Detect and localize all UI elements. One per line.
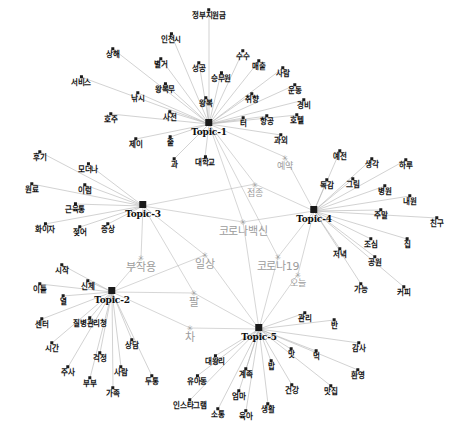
keyword-node[interactable]: 친구 xyxy=(430,216,443,228)
keyword-node[interactable]: 과외 xyxy=(274,133,287,145)
keyword-node[interactable]: 센터 xyxy=(35,317,48,329)
shared-node[interactable]: ✳오늘 xyxy=(290,273,305,288)
keyword-node[interactable]: 주말 xyxy=(374,208,387,220)
keyword-node[interactable]: 병원 xyxy=(378,184,391,196)
keyword-node[interactable]: 계족 xyxy=(239,367,252,379)
keyword-node[interactable]: 열 xyxy=(60,294,67,306)
keyword-node[interactable]: 소통 xyxy=(211,407,224,419)
keyword-node[interactable]: 승무원 xyxy=(211,71,231,83)
keyword-node[interactable]: 가능 xyxy=(354,282,367,294)
keyword-node[interactable]: 반 xyxy=(331,318,338,330)
keyword-node[interactable]: 생각 xyxy=(365,157,378,169)
keyword-node[interactable]: 정부지원금 xyxy=(192,8,226,20)
keyword-node[interactable]: 밥 xyxy=(268,359,275,371)
node-label: 집 xyxy=(404,241,411,249)
keyword-node[interactable]: 내원 xyxy=(403,194,416,206)
keyword-node[interactable]: 왕복무 xyxy=(155,82,175,94)
keyword-node[interactable]: 유아동 xyxy=(187,374,207,386)
keyword-node[interactable]: 별거 xyxy=(154,57,167,69)
keyword-node[interactable]: 항공 xyxy=(260,114,273,126)
keyword-node[interactable]: 호텔 xyxy=(290,113,303,125)
shared-node[interactable]: ✳일상 xyxy=(195,253,214,270)
keyword-node[interactable]: 독감 xyxy=(320,178,333,190)
keyword-node[interactable]: 주사 xyxy=(61,365,74,377)
node-label: 일상 xyxy=(195,259,214,270)
node-label: Topic-2 xyxy=(94,296,129,305)
keyword-node[interactable]: 시작 xyxy=(55,263,68,275)
shared-node[interactable]: ✳팔 xyxy=(189,291,199,308)
keyword-node[interactable]: 운동 xyxy=(288,83,301,95)
keyword-node[interactable]: 과 xyxy=(171,157,178,169)
shared-node[interactable]: ✳예약 xyxy=(277,156,292,171)
keyword-node[interactable]: 대왕리 xyxy=(205,354,225,366)
keyword-node[interactable]: 질병관리청 xyxy=(73,316,107,328)
keyword-node[interactable]: 후기 xyxy=(33,150,46,162)
keyword-node[interactable]: 이틀 xyxy=(33,282,46,294)
node-label: 대학교 xyxy=(195,159,215,167)
node-label: 이럼 xyxy=(78,187,91,195)
keyword-node[interactable]: 대학교 xyxy=(195,155,215,167)
keyword-node[interactable]: 조심 xyxy=(364,237,377,249)
keyword-node[interactable]: 상담 xyxy=(125,338,138,350)
keyword-node[interactable]: 인스타그램 xyxy=(173,398,207,410)
topic-node-topic-4[interactable]: Topic-4 xyxy=(296,206,331,224)
keyword-node[interactable]: 집 xyxy=(404,237,411,249)
keyword-node[interactable]: 줄 xyxy=(167,135,174,147)
keyword-node[interactable]: 이럼 xyxy=(78,183,91,195)
keyword-node[interactable]: 경비 xyxy=(297,98,310,110)
keyword-node[interactable]: 생활 xyxy=(261,402,274,414)
topic-node-topic-3[interactable]: Topic-3 xyxy=(125,201,160,219)
shared-node[interactable]: ✳접종 xyxy=(247,183,262,198)
keyword-node[interactable]: 맛집 xyxy=(324,384,337,396)
keyword-node[interactable]: 터 xyxy=(240,116,247,128)
keyword-node[interactable]: 먹 xyxy=(313,349,320,361)
keyword-node[interactable]: 예전 xyxy=(333,149,346,161)
keyword-node[interactable]: 근육통 xyxy=(65,202,85,214)
keyword-node[interactable]: 공원 xyxy=(368,255,381,267)
keyword-node[interactable]: 왕복 xyxy=(199,96,212,108)
topic-node-topic-1[interactable]: Topic-1 xyxy=(191,119,226,137)
keyword-node[interactable]: 맛 xyxy=(288,347,295,359)
keyword-node[interactable]: 관리 xyxy=(298,311,311,323)
keyword-node[interactable]: 엄마 xyxy=(232,389,245,401)
keyword-node[interactable]: 가족 xyxy=(106,386,119,398)
keyword-node[interactable]: 호주 xyxy=(104,112,117,124)
keyword-node[interactable]: 육아 xyxy=(239,409,252,421)
keyword-node[interactable]: 건강 xyxy=(285,383,298,395)
shared-node[interactable]: ✳부작용 xyxy=(126,256,155,273)
keyword-node[interactable]: 취향 xyxy=(245,92,258,104)
keyword-node[interactable]: 인천시 xyxy=(161,32,181,44)
keyword-node[interactable]: 사람 xyxy=(114,365,127,377)
keyword-node[interactable]: 환영 xyxy=(351,368,364,380)
keyword-node[interactable]: 시간 xyxy=(45,341,58,353)
shared-node[interactable]: ✳코로나19 xyxy=(257,255,300,272)
shared-node[interactable]: ✳코로나백신 xyxy=(219,220,268,237)
keyword-node[interactable]: 매출 xyxy=(252,59,265,71)
keyword-node[interactable]: 하루 xyxy=(399,158,412,170)
keyword-node[interactable]: 커피 xyxy=(397,285,410,297)
keyword-node[interactable]: 젖어 xyxy=(73,225,86,237)
keyword-node[interactable]: 원료 xyxy=(25,182,38,194)
topic-node-topic-5[interactable]: Topic-5 xyxy=(241,324,276,342)
keyword-node[interactable]: 두통 xyxy=(145,374,158,386)
keyword-node[interactable]: 사람 xyxy=(276,66,289,78)
shared-node[interactable]: ✳차 xyxy=(185,326,195,343)
keyword-node[interactable]: 서비스 xyxy=(71,75,91,87)
keyword-node[interactable]: 부부 xyxy=(83,376,96,388)
node-label: 계족 xyxy=(239,371,252,379)
keyword-node[interactable]: 사전 xyxy=(163,110,176,122)
keyword-node[interactable]: 성공 xyxy=(192,61,205,73)
keyword-node[interactable]: 감사 xyxy=(352,341,365,353)
keyword-node[interactable]: 걱정 xyxy=(93,351,106,363)
keyword-node[interactable]: 증상 xyxy=(101,222,114,234)
topic-node-topic-2[interactable]: Topic-2 xyxy=(94,287,129,305)
keyword-node[interactable]: 상해 xyxy=(106,47,119,59)
keyword-node[interactable]: 수수 xyxy=(236,49,249,61)
keyword-node[interactable]: 제이 xyxy=(129,137,142,149)
keyword-node[interactable]: 저녁 xyxy=(333,247,346,259)
keyword-node[interactable]: 그림 xyxy=(346,177,359,189)
keyword-node[interactable]: 모더나 xyxy=(78,162,98,174)
keyword-node[interactable]: 화이자 xyxy=(35,222,55,234)
keyword-node[interactable]: 신체 xyxy=(81,279,94,291)
keyword-node[interactable]: 낚시 xyxy=(131,91,144,103)
